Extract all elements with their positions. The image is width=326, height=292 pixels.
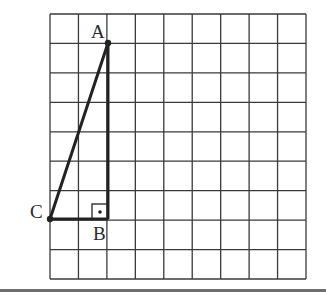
right-angle-dot: [98, 210, 102, 214]
diagram-svg: A B C: [0, 0, 326, 292]
vertex-c-point: [47, 216, 53, 222]
diagram-canvas: A B C: [0, 0, 326, 292]
vertex-label-b: B: [93, 223, 106, 244]
right-angle-marker: [92, 204, 108, 219]
vertex-a-point: [105, 40, 111, 46]
square-grid: [50, 14, 306, 279]
vertex-label-c: C: [30, 201, 43, 222]
vertex-label-a: A: [91, 21, 105, 42]
